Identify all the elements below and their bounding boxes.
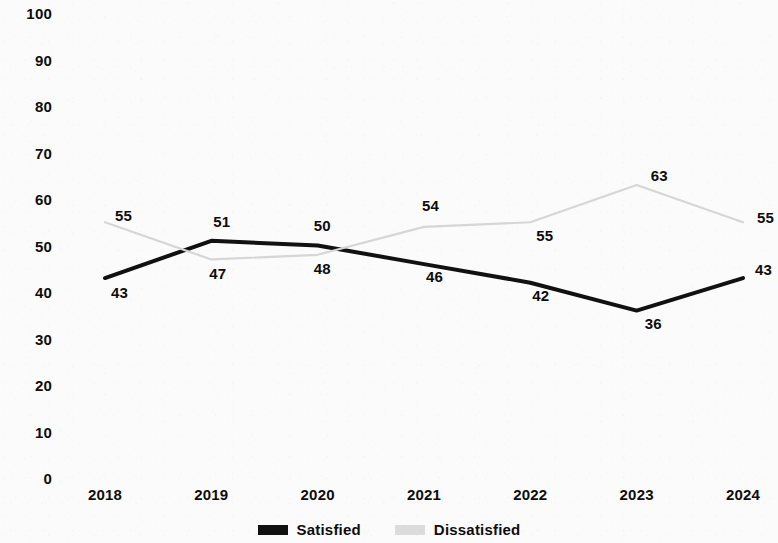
data-point-label: 55 <box>757 210 774 225</box>
x-axis: 2018201920202021202220232024 <box>0 487 778 507</box>
legend-item-label: Satisfied <box>297 522 361 538</box>
plot-area: 4351504642364355474854556355 <box>0 0 778 500</box>
data-point-label: 55 <box>536 228 553 243</box>
x-axis-tick-label: 2022 <box>490 487 570 503</box>
data-point-label: 54 <box>422 198 439 213</box>
x-axis-tick-label: 2019 <box>171 487 251 503</box>
legend-item[interactable]: Dissatisfied <box>395 522 521 538</box>
data-point-label: 63 <box>651 168 668 183</box>
legend-swatch-icon <box>395 525 425 535</box>
x-axis-tick-label: 2021 <box>384 487 464 503</box>
legend-swatch-icon <box>258 525 288 535</box>
x-axis-tick-label: 2020 <box>278 487 358 503</box>
legend-item-label: Dissatisfied <box>434 522 521 538</box>
series-line-satisfied <box>105 241 743 311</box>
data-point-label: 55 <box>115 208 132 223</box>
data-point-label: 48 <box>314 261 331 276</box>
data-point-label: 51 <box>213 214 230 229</box>
data-point-label: 50 <box>314 218 331 233</box>
data-point-label: 36 <box>645 316 662 331</box>
data-point-label: 43 <box>111 285 128 300</box>
data-point-label: 47 <box>209 266 226 281</box>
x-axis-tick-label: 2023 <box>597 487 677 503</box>
data-point-label: 42 <box>532 288 549 303</box>
chart-legend: SatisfiedDissatisfied <box>0 519 778 541</box>
line-chart: 0102030405060708090100 43515046423643554… <box>0 0 778 543</box>
x-axis-tick-label: 2018 <box>65 487 145 503</box>
data-point-label: 46 <box>426 269 443 284</box>
series-lines <box>0 0 778 500</box>
legend-item[interactable]: Satisfied <box>258 522 361 538</box>
x-axis-tick-label: 2024 <box>703 487 778 503</box>
data-point-label: 43 <box>755 262 772 277</box>
